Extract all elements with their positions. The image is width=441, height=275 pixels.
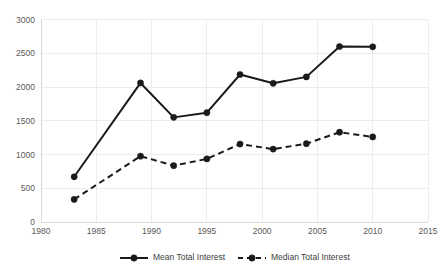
legend-label: Median Total Interest <box>271 252 350 262</box>
chart-legend: Mean Total InterestMedian Total Interest <box>120 252 350 262</box>
series-mean <box>71 43 376 179</box>
data-point-marker <box>171 163 177 169</box>
legend-marker-swatch <box>249 255 255 261</box>
legend-marker-swatch <box>131 255 137 261</box>
data-point-marker <box>336 129 342 135</box>
y-axis-tick-label: 2500 <box>16 48 35 58</box>
data-point-marker <box>237 141 243 147</box>
series-line <box>74 47 373 177</box>
x-axis-tick-label: 2015 <box>419 226 438 236</box>
x-axis-tick-label: 1990 <box>142 226 161 236</box>
series-line <box>74 132 373 199</box>
x-axis-tick-label: 2010 <box>363 226 382 236</box>
y-axis-tick-label: 500 <box>21 183 35 193</box>
x-axis-tick-labels: 19801985199019952000200520102015 <box>32 226 438 236</box>
legend-item-median[interactable]: Median Total Interest <box>238 252 350 262</box>
series-median <box>71 129 376 202</box>
data-point-marker <box>204 110 210 116</box>
data-point-marker <box>370 44 376 50</box>
x-axis-tick-label: 2000 <box>253 226 272 236</box>
data-point-marker <box>71 174 77 180</box>
x-axis-tick-label: 1985 <box>87 226 106 236</box>
line-chart: 050010001500200025003000 198019851990199… <box>0 0 441 275</box>
data-point-marker <box>171 114 177 120</box>
y-axis-tick-label: 1000 <box>16 150 35 160</box>
y-axis-tick-label: 1500 <box>16 116 35 126</box>
data-point-marker <box>137 153 143 159</box>
data-point-marker <box>204 156 210 162</box>
legend-item-mean[interactable]: Mean Total Interest <box>120 252 226 262</box>
x-axis-tick-label: 2005 <box>308 226 327 236</box>
data-point-marker <box>303 141 309 147</box>
chart-canvas: 050010001500200025003000 198019851990199… <box>0 0 441 275</box>
x-axis-tick-label: 1980 <box>32 226 51 236</box>
x-axis-tick-label: 1995 <box>197 226 216 236</box>
y-axis-tick-label: 2000 <box>16 82 35 92</box>
data-point-marker <box>303 74 309 80</box>
data-point-marker <box>370 134 376 140</box>
y-axis-tick-labels: 050010001500200025003000 <box>16 15 35 228</box>
legend-label: Mean Total Interest <box>153 252 226 262</box>
data-point-marker <box>237 71 243 77</box>
y-axis-tick-label: 3000 <box>16 15 35 25</box>
data-point-marker <box>336 43 342 49</box>
data-point-marker <box>270 80 276 86</box>
data-point-marker <box>71 196 77 202</box>
data-point-marker <box>270 146 276 152</box>
data-series-group <box>71 43 376 202</box>
gridlines-group <box>41 20 428 223</box>
data-point-marker <box>137 80 143 86</box>
